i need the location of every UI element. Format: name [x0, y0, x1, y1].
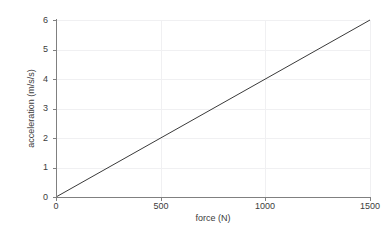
- x-axis-spine: [56, 197, 371, 198]
- x-tick-label: 1500: [360, 202, 380, 211]
- x-tick-label: 500: [153, 202, 168, 211]
- y-tick-label: 4: [43, 75, 48, 84]
- line-series-acceleration-vs-force: [56, 20, 370, 197]
- y-axis-title: acceleration (m/s/s): [26, 20, 38, 197]
- x-tick-label: 0: [53, 202, 58, 211]
- y-tick-label: 6: [43, 16, 48, 25]
- y-tick-label: 0: [43, 193, 48, 202]
- x-axis-title: force (N): [56, 213, 370, 223]
- gridline-vertical: [370, 20, 371, 197]
- x-tick-label: 1000: [255, 202, 275, 211]
- y-axis-spine: [56, 19, 57, 198]
- y-tick-label: 5: [43, 45, 48, 54]
- y-tick-mark: [53, 20, 56, 21]
- y-tick-mark: [53, 50, 56, 51]
- y-tick-mark: [53, 109, 56, 110]
- y-tick-label: 2: [43, 134, 48, 143]
- y-tick-mark: [53, 138, 56, 139]
- y-tick-mark: [53, 79, 56, 80]
- data-series-layer: [56, 20, 370, 197]
- y-tick-mark: [53, 168, 56, 169]
- chart-figure: 0123456 050010001500 acceleration (m/s/s…: [0, 0, 389, 232]
- plot-area: [56, 20, 370, 197]
- y-tick-label: 1: [43, 163, 48, 172]
- y-tick-label: 3: [43, 104, 48, 113]
